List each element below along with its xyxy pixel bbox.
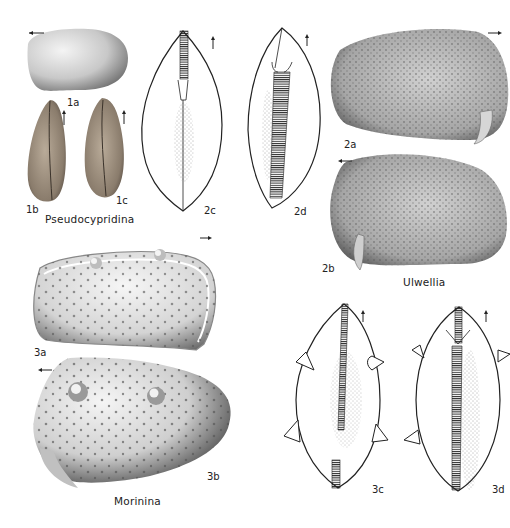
figure-2d [248, 28, 320, 208]
label-2d: 2d [294, 207, 307, 217]
figure-3b [33, 358, 230, 488]
label-2c: 2c [204, 206, 216, 216]
label-3d: 3d [492, 485, 505, 495]
figure-3a [34, 236, 216, 350]
genus-pseudocypridina: Pseudocypridina [45, 213, 134, 225]
figure-1a [28, 29, 128, 91]
label-2b: 2b [322, 264, 335, 274]
figure-2c [142, 31, 222, 211]
figure-1c [85, 98, 126, 197]
genus-ulwellia: Ulwellia [403, 276, 445, 288]
figure-2a [331, 29, 508, 144]
label-3a: 3a [34, 348, 47, 358]
label-3b: 3b [207, 472, 220, 482]
label-2a: 2a [344, 140, 357, 150]
figure-1b [28, 100, 66, 202]
figure-3c [284, 304, 388, 488]
label-1c: 1c [116, 196, 128, 206]
figure-3d [404, 307, 510, 491]
fossil-plate [0, 0, 510, 528]
label-3c: 3c [372, 485, 384, 495]
genus-morinina: Morinina [114, 495, 161, 507]
label-1b: 1b [26, 205, 39, 215]
figure-2b [330, 154, 507, 270]
label-1a: 1a [67, 98, 80, 108]
